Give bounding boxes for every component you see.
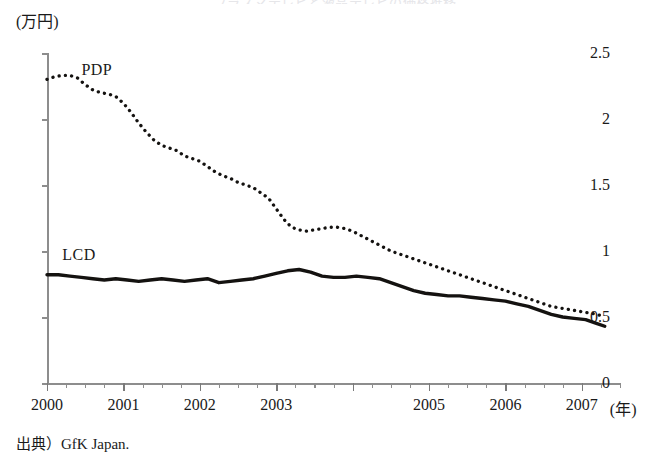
x-tick-label: 2001 xyxy=(107,396,139,414)
x-tick-minor xyxy=(66,383,67,388)
x-tick-minor xyxy=(391,383,392,388)
clipped-figure-title: プラズマテレビと液晶テレビの価格推移 xyxy=(0,0,670,4)
x-tick-major xyxy=(429,383,430,391)
x-tick-label: 2003 xyxy=(260,396,292,414)
x-tick-minor xyxy=(620,383,621,388)
x-tick-minor xyxy=(143,383,144,388)
chart-figure: プラズマテレビと液晶テレビの価格推移 (万円) 00.511.522.5 200… xyxy=(0,0,670,468)
x-tick-minor xyxy=(467,383,468,388)
x-tick-minor xyxy=(525,383,526,388)
x-tick-minor xyxy=(314,383,315,388)
x-tick-minor xyxy=(85,383,86,388)
y-axis-unit-label: (万円) xyxy=(16,8,59,32)
x-tick-major xyxy=(276,383,277,391)
x-tick-minor xyxy=(601,383,602,388)
series-lcd-line xyxy=(47,269,605,326)
x-axis-unit-label: (年) xyxy=(610,396,637,420)
x-tick-minor xyxy=(486,383,487,388)
x-tick-label: 2005 xyxy=(413,396,445,414)
x-tick-minor xyxy=(181,383,182,388)
x-tick-minor xyxy=(257,383,258,388)
source-note: 出典）GfK Japan. xyxy=(16,432,129,453)
x-tick-label: 2007 xyxy=(566,396,598,414)
x-tick-major xyxy=(47,383,48,391)
x-tick-minor xyxy=(219,383,220,388)
x-tick-minor xyxy=(372,383,373,388)
x-tick-label: 2000 xyxy=(31,396,63,414)
plot-area: 00.511.522.5 200020012002200320052006200… xyxy=(47,53,620,383)
x-tick-minor xyxy=(544,383,545,388)
x-tick-minor xyxy=(162,383,163,388)
x-tick-label: 2002 xyxy=(184,396,216,414)
x-tick-minor xyxy=(410,383,411,388)
x-tick-minor xyxy=(104,383,105,388)
x-tick-label: 2006 xyxy=(489,396,521,414)
x-tick-major xyxy=(582,383,583,391)
x-tick-minor xyxy=(334,383,335,388)
x-tick-minor xyxy=(295,383,296,388)
x-tick-major xyxy=(200,383,201,391)
x-tick-major xyxy=(505,383,506,391)
series-lines xyxy=(47,53,620,383)
x-tick-minor xyxy=(563,383,564,388)
x-tick-major xyxy=(123,383,124,391)
x-tick-minor xyxy=(448,383,449,388)
x-tick-minor xyxy=(238,383,239,388)
x-tick-major xyxy=(353,383,354,391)
